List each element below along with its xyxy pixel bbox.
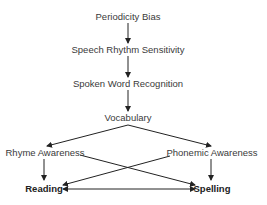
edge-vocabulary-to-rhyme [47,125,128,146]
node-reading: Reading [25,184,62,194]
edge-phonemic-to-reading [63,156,170,185]
diagram-edges [0,0,267,205]
edge-rhyme-to-spelling [80,155,195,185]
edge-vocabulary-to-phonemic [128,125,211,146]
node-speech-rhythm-sensitivity: Speech Rhythm Sensitivity [72,45,185,55]
node-periodicity-bias: Periodicity Bias [96,12,161,22]
node-spoken-word-recognition: Spoken Word Recognition [73,79,183,89]
node-vocabulary: Vocabulary [104,113,151,123]
node-spelling: Spelling [194,184,231,194]
node-phonemic-awareness: Phonemic Awareness [166,148,257,158]
node-rhyme-awareness: Rhyme Awareness [5,148,84,158]
